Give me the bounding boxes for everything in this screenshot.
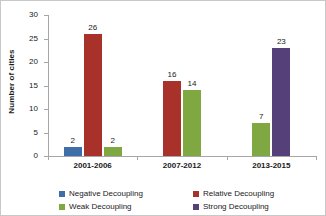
bar-value-label: 2 xyxy=(61,136,85,145)
x-axis-line xyxy=(48,156,316,157)
bar xyxy=(272,48,290,156)
legend-item[interactable]: Negative Decoupling xyxy=(5,187,165,200)
x-axis-label: 2007-2012 xyxy=(137,161,227,170)
legend-swatch xyxy=(193,191,199,197)
legend-label: Strong Decoupling xyxy=(203,202,269,211)
bar-value-label: 16 xyxy=(160,70,184,79)
plot-area: 22621614723 xyxy=(48,15,316,156)
bar xyxy=(84,34,102,156)
y-axis-tick-label: 0 xyxy=(18,152,38,160)
chart-legend: Negative DecouplingRelative DecouplingWe… xyxy=(1,187,326,213)
bar xyxy=(252,123,270,156)
legend-item[interactable]: Weak Decoupling xyxy=(5,200,165,213)
legend-swatch xyxy=(59,191,65,197)
bar-value-label: 14 xyxy=(180,79,204,88)
legend-label: Weak Decoupling xyxy=(69,202,132,211)
y-axis-tick-label: 30 xyxy=(18,11,38,19)
bar-value-label: 2 xyxy=(101,136,125,145)
legend-item[interactable]: Relative Decoupling xyxy=(165,187,325,200)
legend-swatch xyxy=(59,204,65,210)
legend-swatch xyxy=(193,204,199,210)
legend-label: Relative Decoupling xyxy=(203,189,274,198)
bar-value-label: 7 xyxy=(249,112,273,121)
bar-value-label: 26 xyxy=(81,23,105,32)
y-axis-tick-label: 15 xyxy=(18,82,38,90)
y-axis-tick-label: 10 xyxy=(18,105,38,113)
bar xyxy=(163,81,181,156)
bar xyxy=(183,90,201,156)
x-axis-separator xyxy=(316,156,317,160)
x-axis-label: 2013-2015 xyxy=(226,161,316,170)
legend-label: Negative Decoupling xyxy=(69,189,143,198)
bar-chart: Number of cities 302520151050 2262161472… xyxy=(0,0,326,216)
y-axis-tick-label: 25 xyxy=(18,35,38,43)
y-axis-title: Number of cities xyxy=(3,1,19,161)
y-axis-tick-label: 20 xyxy=(18,58,38,66)
y-axis-tick-label: 5 xyxy=(18,129,38,137)
bar-value-label: 23 xyxy=(269,37,293,46)
x-axis-label: 2001-2006 xyxy=(48,161,138,170)
bar xyxy=(64,147,82,156)
y-axis-title-label: Number of cities xyxy=(7,49,16,113)
x-axis-separator xyxy=(227,156,228,160)
x-axis-separator xyxy=(48,156,49,160)
bar xyxy=(104,147,122,156)
x-axis-separator xyxy=(137,156,138,160)
legend-item[interactable]: Strong Decoupling xyxy=(165,200,325,213)
